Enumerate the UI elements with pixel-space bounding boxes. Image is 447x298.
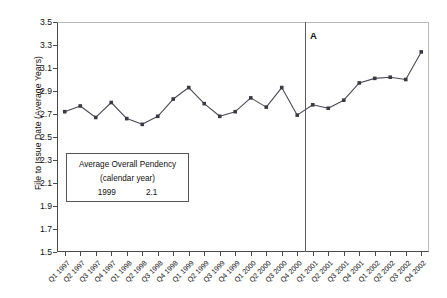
x-tick-mark (375, 252, 376, 256)
y-tick-mark (53, 114, 57, 115)
y-tick-mark (53, 68, 57, 69)
x-tick-mark (390, 252, 391, 256)
y-tick-mark (53, 160, 57, 161)
x-tick-mark (282, 252, 283, 256)
pendency-subtitle: (calendar year) (67, 172, 188, 186)
chart-container: File to Issue Date (Average Years) 1.51.… (0, 0, 447, 298)
y-tick-mark (53, 229, 57, 230)
pendency-textbox: Average Overall Pendency (calendar year)… (66, 153, 189, 202)
y-tick-mark (53, 137, 57, 138)
y-tick-mark (53, 22, 57, 23)
x-tick-mark (96, 252, 97, 256)
x-tick-mark (313, 252, 314, 256)
x-tick-mark (111, 252, 112, 256)
y-tick-mark (53, 252, 57, 253)
x-tick-mark (158, 252, 159, 256)
x-tick-mark (328, 252, 329, 256)
y-tick-mark (53, 91, 57, 92)
y-tick-mark (53, 183, 57, 184)
x-tick-mark (204, 252, 205, 256)
pendency-value: 2.1 (146, 186, 157, 200)
x-tick-mark (80, 252, 81, 256)
x-tick-mark (220, 252, 221, 256)
x-axis-tick-labels: Q1 1997Q2 1997Q3 1997Q4 1997Q1 1998Q2 19… (0, 0, 447, 298)
x-tick-mark (142, 252, 143, 256)
x-tick-mark (127, 252, 128, 256)
x-tick-mark (173, 252, 174, 256)
x-tick-mark (251, 252, 252, 256)
y-tick-mark (53, 206, 57, 207)
pendency-value-row: 1999 2.1 (67, 186, 188, 200)
x-tick-mark (235, 252, 236, 256)
y-tick-mark (53, 45, 57, 46)
x-tick-mark (297, 252, 298, 256)
x-tick-mark (421, 252, 422, 256)
pendency-year: 1999 (98, 186, 116, 200)
x-tick-mark (65, 252, 66, 256)
x-tick-mark (359, 252, 360, 256)
x-tick-mark (189, 252, 190, 256)
x-tick-mark (266, 252, 267, 256)
pendency-title: Average Overall Pendency (67, 158, 188, 172)
x-tick-mark (344, 252, 345, 256)
x-tick-mark (406, 252, 407, 256)
